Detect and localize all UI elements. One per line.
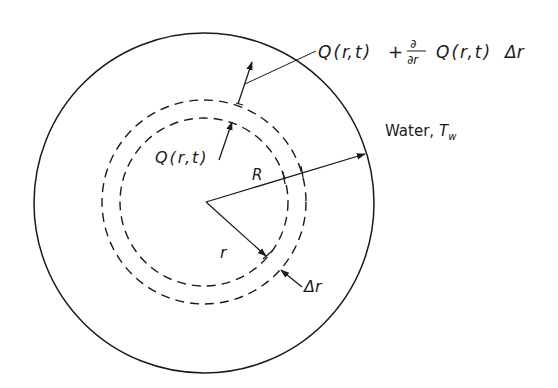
shell-thickness-arrow <box>281 270 302 287</box>
spherical-shell-heat-flux-diagram: Q(r,t) + ∂ ∂r Q(r,t) Δr Q(r,t) Water,Tw … <box>0 0 558 388</box>
inflow-label: Q(r,t) <box>155 148 209 167</box>
outflow-label-term2: Q(r,t) <box>436 42 492 62</box>
partial-denominator: ∂r <box>407 53 419 67</box>
outflow-leader-line <box>245 51 316 84</box>
outflow-label-term1: Q(r,t) <box>318 42 370 62</box>
outflow-label-delta-r: Δr <box>503 42 525 62</box>
radius-r-label: r <box>220 243 228 262</box>
partial-numerator: ∂ <box>410 37 416 51</box>
shell-thickness-label: Δr <box>302 277 323 296</box>
shell-outer-dashed-circle <box>102 100 306 304</box>
shell-inner-dashed-circle <box>120 118 288 286</box>
outflow-arrow <box>238 62 252 104</box>
outflow-arrow-base-tick <box>236 103 243 105</box>
radius-R-arrow <box>206 154 365 202</box>
outflow-label-plus: + <box>388 41 403 62</box>
outer-sphere-boundary <box>34 33 374 373</box>
radius-R-label: R <box>252 166 262 184</box>
water-label: Water,Tw <box>385 122 457 142</box>
radius-r-arrow <box>206 202 266 256</box>
inflow-arrow <box>219 122 232 160</box>
